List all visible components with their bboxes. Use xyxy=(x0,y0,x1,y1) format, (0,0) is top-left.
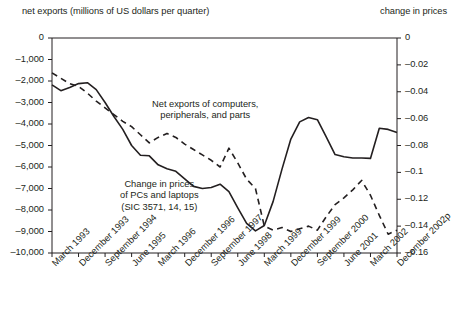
annotation-net-exports: Net exports of computers, peripherals, a… xyxy=(152,99,258,122)
left-tick-label: –5,000 xyxy=(0,140,44,150)
left-tick-label: 0 xyxy=(0,32,44,42)
right-tick-label: –0.04 xyxy=(405,86,455,96)
right-axis-ticks xyxy=(397,38,401,253)
right-tick-label: 0 xyxy=(405,32,455,42)
annotation-net-exports-line2: peripherals, and parts xyxy=(152,110,258,121)
annotation-prices-line2: of PCs and laptops xyxy=(120,190,199,201)
left-tick-label: –9,000 xyxy=(0,226,44,236)
right-tick-label: –0.08 xyxy=(405,140,455,150)
left-tick-label: –1,000 xyxy=(0,54,44,64)
left-tick-label: –10,000 xyxy=(0,247,44,257)
annotation-prices-line3: (SIC 3571, 14, 15) xyxy=(120,202,199,213)
chart-figure: net exports (millions of US dollars per … xyxy=(0,0,455,330)
data-series xyxy=(52,73,397,234)
left-tick-label: –4,000 xyxy=(0,118,44,128)
annotation-prices-line1: Change in prices xyxy=(120,179,199,190)
left-tick-label: –8,000 xyxy=(0,204,44,214)
left-tick-label: –6,000 xyxy=(0,161,44,171)
left-tick-label: –7,000 xyxy=(0,183,44,193)
right-tick-label: –0.1 xyxy=(405,166,455,176)
right-tick-label: –0.02 xyxy=(405,59,455,69)
left-axis-ticks xyxy=(48,38,52,253)
left-tick-label: –2,000 xyxy=(0,75,44,85)
right-tick-label: –0.12 xyxy=(405,193,455,203)
annotation-prices: Change in prices of PCs and laptops (SIC… xyxy=(120,179,199,213)
right-tick-label: –0.06 xyxy=(405,113,455,123)
annotation-net-exports-line1: Net exports of computers, xyxy=(152,99,258,110)
left-tick-label: –3,000 xyxy=(0,97,44,107)
series-line-2 xyxy=(52,73,397,234)
plot-area xyxy=(0,0,455,330)
